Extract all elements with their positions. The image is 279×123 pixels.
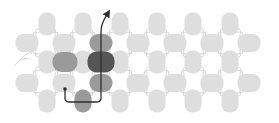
lattice-node <box>149 90 166 113</box>
lattice-node <box>222 90 239 113</box>
lattice-node <box>112 13 129 36</box>
lattice-node <box>16 34 39 52</box>
lattice-node <box>149 51 166 74</box>
lattice-nodes <box>16 13 261 113</box>
lattice-node <box>75 13 92 36</box>
lattice-node <box>39 90 56 113</box>
lattice-node <box>164 74 187 92</box>
lattice-node <box>201 74 224 92</box>
lattice-node <box>39 13 56 36</box>
lattice-diagram <box>0 0 279 123</box>
connector-line <box>14 58 30 66</box>
lattice-node <box>185 51 202 74</box>
lattice-node <box>53 34 76 52</box>
lattice-node <box>238 74 261 92</box>
lattice-node <box>164 34 187 52</box>
lattice-node <box>238 34 261 52</box>
highlighted-node-medium <box>53 52 78 72</box>
lattice-node <box>16 74 39 92</box>
lattice-node <box>222 13 239 36</box>
path-start-dot <box>63 87 67 91</box>
highlighted-node-medium <box>75 90 92 113</box>
lattice-node <box>185 90 202 113</box>
lattice-node <box>222 51 239 74</box>
lattice-node <box>149 13 166 36</box>
lattice-node <box>185 13 202 36</box>
lattice-node <box>112 90 129 113</box>
lattice-node <box>201 34 224 52</box>
lattice-node <box>127 34 150 52</box>
lattice-node <box>127 74 150 92</box>
